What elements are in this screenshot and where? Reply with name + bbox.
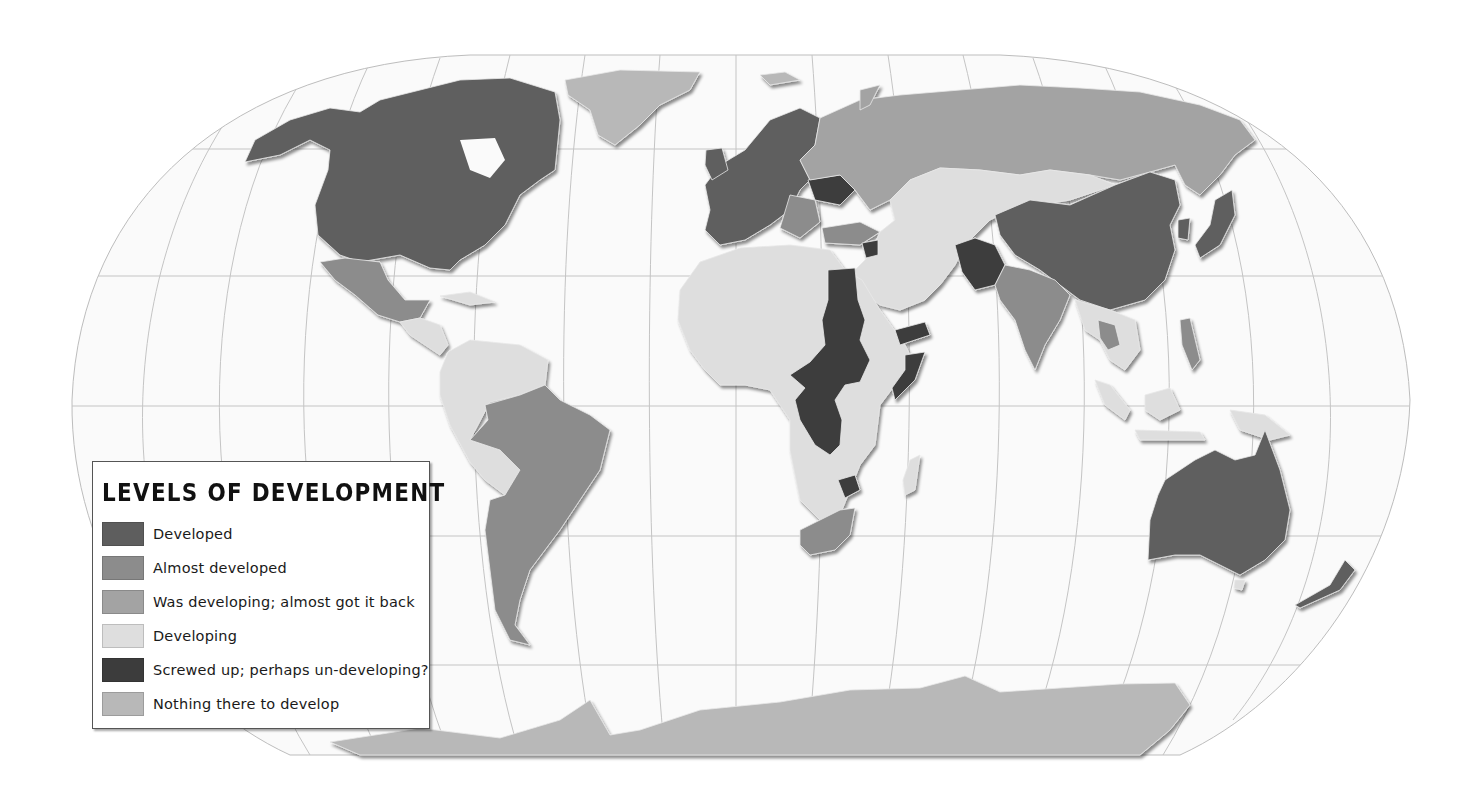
legend-title: LEVELS OF DEVELOPMENT	[102, 478, 446, 507]
legend-label: Was developing; almost got it back	[153, 594, 415, 610]
legend-item-developing: Developing	[102, 624, 237, 648]
legend-swatch-was-developing	[102, 590, 144, 614]
region-korea	[1178, 218, 1190, 240]
legend-item-almost-developed: Almost developed	[102, 556, 287, 580]
legend-swatch-developed	[102, 522, 144, 546]
legend-swatch-developing	[102, 624, 144, 648]
legend-swatch-almost-developed	[102, 556, 144, 580]
legend-item-nothing-to-develop: Nothing there to develop	[102, 692, 339, 716]
legend-label: Almost developed	[153, 560, 287, 576]
legend-label: Screwed up; perhaps un-developing?	[153, 662, 429, 678]
legend-swatch-nothing-to-develop	[102, 692, 144, 716]
legend-label: Developing	[153, 628, 237, 644]
legend-item-developed: Developed	[102, 522, 233, 546]
legend-label: Nothing there to develop	[153, 696, 339, 712]
legend-label: Developed	[153, 526, 233, 542]
legend-item-screwed-up: Screwed up; perhaps un-developing?	[102, 658, 429, 682]
legend: LEVELS OF DEVELOPMENT Developed Almost d…	[92, 461, 430, 729]
legend-item-was-developing: Was developing; almost got it back	[102, 590, 415, 614]
legend-swatch-screwed-up	[102, 658, 144, 682]
